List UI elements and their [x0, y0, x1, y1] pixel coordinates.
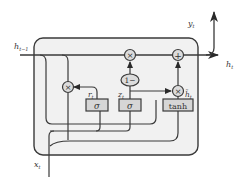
mul-reset-op: × [63, 82, 74, 93]
svg-text:σ: σ [127, 101, 133, 111]
y-out-label: yt [187, 19, 196, 29]
add-top-op: + [173, 50, 184, 61]
reset-gate: σ [86, 99, 108, 111]
svg-text:tanh: tanh [169, 102, 187, 111]
h-out-label: ht [226, 60, 234, 70]
gru-diagram: × × + 1− × σ σ tanh rt zt h̃t ht−1 ht yt… [0, 0, 248, 177]
plus-icon: + [174, 51, 182, 61]
multiply-icon: × [65, 83, 72, 92]
one-minus-op: 1− [121, 74, 139, 86]
multiply-icon: × [127, 51, 134, 60]
x-in-label: xt [34, 160, 42, 170]
update-gate: σ [119, 99, 141, 111]
h-prev-label: ht−1 [14, 42, 29, 52]
multiply-icon: × [175, 87, 182, 96]
mul-top-op: × [125, 50, 136, 61]
output-y-line [206, 12, 214, 55]
mul-candidate-op: × [173, 86, 184, 97]
svg-text:σ: σ [94, 101, 100, 111]
svg-text:1−: 1− [124, 76, 135, 85]
candidate-gate: tanh [163, 99, 193, 111]
